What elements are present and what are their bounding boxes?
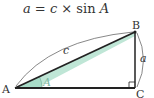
side-c bbox=[15, 32, 135, 88]
triangle-diagram: A B C c a A bbox=[0, 0, 154, 98]
angle-a-label: A bbox=[42, 76, 51, 89]
vertex-b-label: B bbox=[132, 19, 140, 32]
side-c-label: c bbox=[63, 44, 69, 57]
side-c-arc bbox=[16, 32, 133, 86]
side-a-label: a bbox=[140, 52, 147, 65]
vertex-c-label: C bbox=[136, 88, 144, 98]
vertex-a-label: A bbox=[1, 83, 11, 96]
